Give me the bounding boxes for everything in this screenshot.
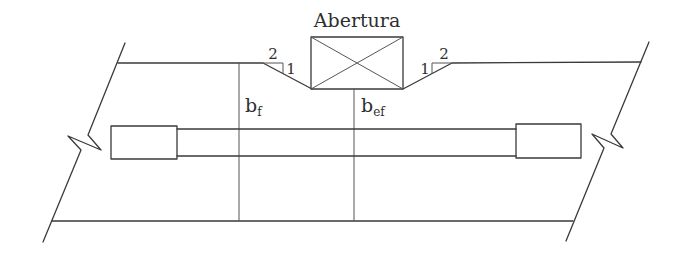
slope-left-vertical: 1	[286, 60, 296, 78]
slab-opening-diagram: Abertura 2 1 1 2 bf bef	[0, 0, 679, 254]
bf-label-main: b	[245, 94, 257, 116]
diagram-canvas: Abertura 2 1 1 2 bf bef	[0, 0, 679, 254]
beam-support-left	[111, 126, 177, 159]
beam-support-right	[516, 124, 581, 158]
opening-title: Abertura	[313, 9, 401, 31]
bef-label-main: b	[361, 94, 373, 116]
bef-label-sub: ef	[373, 105, 386, 119]
left-break-line	[43, 43, 125, 242]
slope-left-horizontal: 2	[268, 45, 278, 63]
bef-label: bef	[361, 94, 386, 119]
top-edge-right	[403, 62, 641, 89]
bf-label-sub: f	[257, 105, 263, 119]
right-break-line	[566, 42, 649, 241]
bf-label: bf	[245, 94, 263, 119]
slope-right-vertical: 1	[420, 60, 430, 78]
slope-right-horizontal: 2	[439, 45, 449, 63]
